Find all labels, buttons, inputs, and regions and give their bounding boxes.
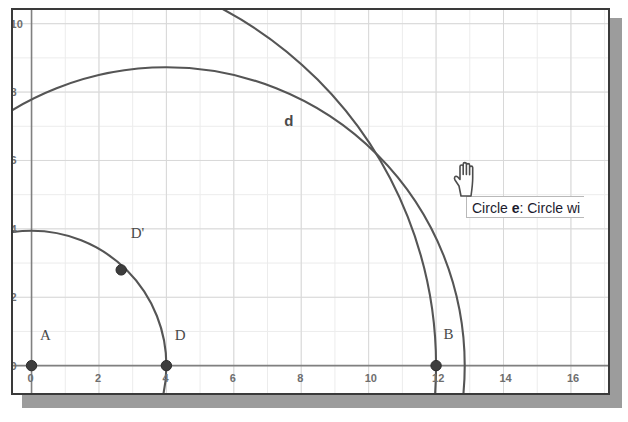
y-tick-label-10: 10 bbox=[13, 18, 23, 30]
y-tick-label-6: 6 bbox=[13, 154, 17, 166]
screenshot-root: d02468101214160246810ADBD' Circle e: Cir… bbox=[0, 0, 628, 422]
y-tick-label-8: 8 bbox=[13, 86, 17, 98]
x-tick-label-6: 6 bbox=[230, 372, 236, 384]
circle-label-d[interactable]: d bbox=[284, 112, 293, 129]
object-tooltip: Circle e: Circle wi bbox=[466, 196, 584, 218]
point-label-D-prime[interactable]: D' bbox=[131, 225, 145, 241]
circle-curve-d[interactable] bbox=[13, 10, 436, 393]
pointing-hand-cursor bbox=[450, 158, 484, 198]
x-tick-label-2: 2 bbox=[95, 372, 101, 384]
tooltip-prefix: Circle bbox=[472, 200, 512, 216]
tooltip-suffix: : Circle wi bbox=[519, 200, 580, 216]
point-A[interactable] bbox=[26, 360, 36, 370]
x-tick-label-8: 8 bbox=[297, 372, 303, 384]
point-D[interactable] bbox=[161, 360, 171, 370]
point-label-A[interactable]: A bbox=[40, 327, 51, 343]
x-tick-label-0: 0 bbox=[28, 372, 34, 384]
point-label-D[interactable]: D bbox=[175, 327, 186, 343]
x-tick-label-12: 12 bbox=[432, 372, 444, 384]
x-tick-label-14: 14 bbox=[499, 372, 512, 384]
x-tick-label-4: 4 bbox=[162, 372, 169, 384]
x-tick-label-10: 10 bbox=[365, 372, 377, 384]
point-D-prime[interactable] bbox=[116, 265, 126, 275]
point-B[interactable] bbox=[431, 360, 441, 370]
point-label-B[interactable]: B bbox=[443, 326, 453, 342]
y-tick-label-0: 0 bbox=[13, 360, 17, 372]
x-tick-label-16: 16 bbox=[567, 372, 579, 384]
circle-curve-e[interactable] bbox=[13, 67, 465, 393]
y-tick-label-2: 2 bbox=[13, 291, 17, 303]
